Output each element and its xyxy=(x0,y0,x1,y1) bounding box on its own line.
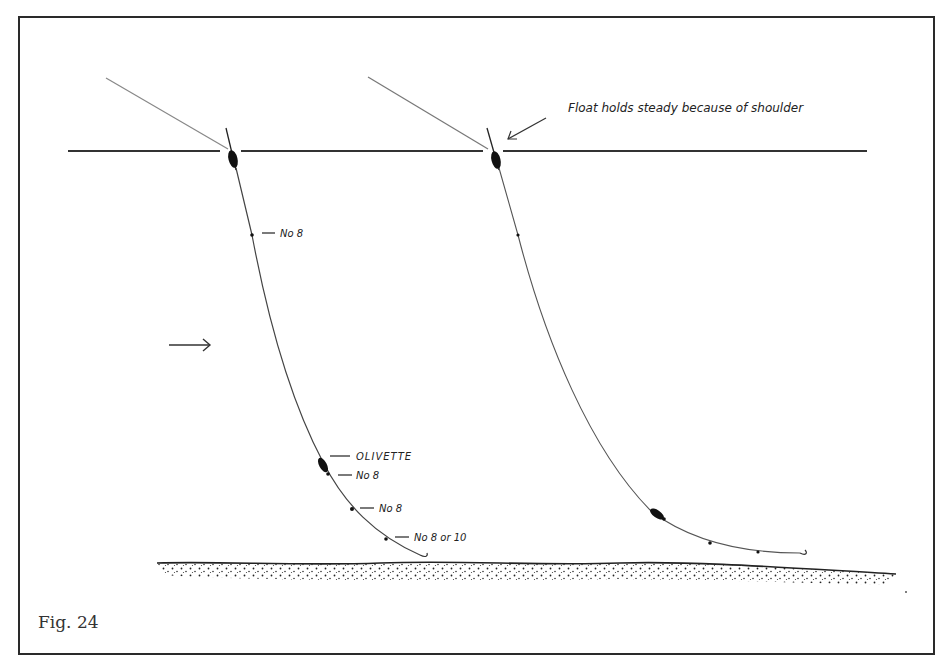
annotation-text: Float holds steady because of shoulder xyxy=(568,101,804,115)
left-shot-top xyxy=(250,233,254,237)
annotation-arrow-icon xyxy=(508,118,546,139)
right-shot-middle xyxy=(708,541,712,545)
figure-caption: Fig. 24 xyxy=(38,612,99,632)
left-float-icon xyxy=(226,128,240,170)
current-arrow-icon xyxy=(169,339,210,351)
left-shot-below-olivette xyxy=(326,472,330,476)
right-hook-icon xyxy=(800,550,806,554)
label-shot-top: No 8 xyxy=(280,228,303,239)
right-shot-bottom xyxy=(756,550,759,553)
right-rig-line xyxy=(499,168,800,553)
fishing-rig-diagram: No 8 OLIVETTE No 8 No 8 No 8 or 10 Float… xyxy=(0,0,951,672)
seabed xyxy=(157,562,896,585)
left-rod-line xyxy=(106,78,228,149)
left-label-dashes xyxy=(262,233,409,537)
right-rod-line xyxy=(368,77,488,149)
stray-dot xyxy=(905,591,907,593)
label-olivette: OLIVETTE xyxy=(356,451,412,462)
right-shot-top xyxy=(516,233,519,236)
right-float-icon xyxy=(487,128,503,170)
left-shot-bottom xyxy=(384,537,388,541)
label-shot-bottom: No 8 or 10 xyxy=(414,532,466,543)
right-shot-below-olivette xyxy=(662,517,666,521)
label-shot-middle: No 8 xyxy=(379,503,402,514)
left-hook-icon xyxy=(420,553,427,556)
left-rig-line xyxy=(236,168,420,555)
left-shot-middle xyxy=(350,507,354,511)
label-shot-below-olivette: No 8 xyxy=(356,470,379,481)
